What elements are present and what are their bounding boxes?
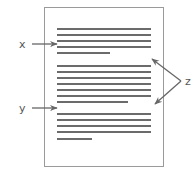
page-outline [45,8,164,167]
label-z: z [185,75,191,88]
document-diagram: x y z [0,0,196,178]
label-y: y [19,102,26,115]
label-x: x [19,38,26,51]
paragraph-2 [57,66,151,102]
